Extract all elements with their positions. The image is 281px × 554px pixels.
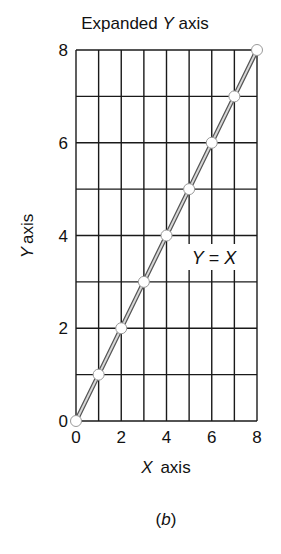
x-tick-label: 0 xyxy=(71,428,80,447)
x-axis-label: X axis xyxy=(140,458,190,477)
annotation-y-equals-x: Y = X xyxy=(186,244,244,270)
data-point-marker xyxy=(229,91,240,102)
chart-title: Expanded Y axis xyxy=(81,14,209,33)
x-tick-label: 2 xyxy=(117,428,126,447)
data-point-marker xyxy=(71,416,82,427)
y-axis-label: Yaxis xyxy=(18,214,37,259)
svg-text:Y = X: Y = X xyxy=(192,248,238,268)
chart: Expanded Y axis 02468 02468 Y = X Yaxis … xyxy=(0,0,281,554)
y-tick-label: 2 xyxy=(59,319,68,338)
data-point-marker xyxy=(206,137,217,148)
data-point-marker xyxy=(184,184,195,195)
data-point-marker xyxy=(116,323,127,334)
y-tick-labels: 02468 xyxy=(59,41,68,431)
y-tick-label: 0 xyxy=(59,412,68,431)
y-tick-label: 8 xyxy=(59,41,68,60)
data-point-marker xyxy=(252,45,263,56)
y-tick-label: 4 xyxy=(59,227,68,246)
x-tick-label: 4 xyxy=(162,428,171,447)
x-tick-labels: 02468 xyxy=(71,428,261,447)
data-point-marker xyxy=(138,276,149,287)
figure-caption: (b) xyxy=(156,510,177,529)
x-tick-label: 6 xyxy=(207,428,216,447)
data-point-marker xyxy=(161,230,172,241)
y-tick-label: 6 xyxy=(59,134,68,153)
x-tick-label: 8 xyxy=(252,428,261,447)
data-point-marker xyxy=(93,369,104,380)
